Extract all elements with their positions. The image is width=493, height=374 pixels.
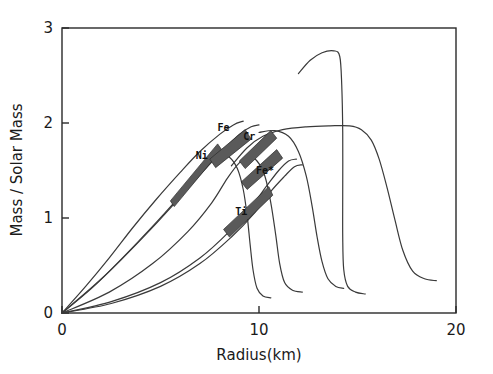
band-label-Ni: Ni — [196, 150, 208, 161]
y-tick-label: 0 — [43, 304, 53, 322]
curve-curve-c-peak-fall-left — [62, 155, 271, 313]
band-label-Cr: Cr — [243, 131, 255, 142]
y-tick-label: 1 — [43, 209, 53, 227]
curve-curve-d-shoulder — [62, 157, 302, 313]
x-tick-label: 10 — [249, 321, 268, 339]
x-tick-label: 0 — [57, 321, 67, 339]
x-tick-label: 20 — [446, 321, 465, 339]
band-label-Ti: Ti — [235, 206, 247, 217]
chart-svg: 010200123 NiFeCrFe*Ti Radius(km) Mass / … — [0, 0, 493, 374]
mass-radius-chart: 010200123 NiFeCrFe*Ti Radius(km) Mass / … — [0, 0, 493, 374]
y-tick-label: 2 — [43, 114, 53, 132]
y-axis-label: Mass / Solar Mass — [8, 103, 26, 236]
curve-curve-h-tall-peak — [298, 51, 365, 294]
band-label-Festar: Fe* — [256, 165, 274, 176]
band-label-Fe: Fe — [218, 122, 230, 133]
x-axis-label: Radius(km) — [216, 346, 301, 364]
composition-bands — [170, 130, 282, 237]
y-tick-label: 3 — [43, 19, 53, 37]
curve-curve-e-lower-slow — [62, 159, 296, 313]
